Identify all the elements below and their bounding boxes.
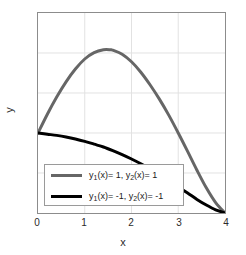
figure: 3 2 1 0 -1 -2 0 1 2 3 4 x y y1(x)= 1, y2… (0, 0, 246, 255)
x-axis-label: x (0, 236, 246, 248)
x-tick-label: 1 (72, 218, 96, 228)
legend-entry-label: y1(x)= -1, y2(x)= -1 (89, 191, 163, 202)
x-tick-label: 2 (119, 218, 143, 228)
x-tick-label: 4 (214, 218, 238, 228)
legend-entry: y1(x)= -1, y2(x)= -1 (45, 186, 183, 207)
x-tick-label: 3 (167, 218, 191, 228)
x-tick-label: 0 (25, 218, 49, 228)
legend-color-swatch (51, 195, 82, 198)
y-axis-label: y (3, 90, 15, 130)
legend-entry-label: y1(x)= 1, y2(x)= 1 (89, 170, 157, 181)
legend: y1(x)= 1, y2(x)= 1 y1(x)= -1, y2(x)= -1 (44, 164, 184, 206)
legend-color-swatch (51, 174, 82, 177)
legend-entry: y1(x)= 1, y2(x)= 1 (45, 165, 183, 186)
